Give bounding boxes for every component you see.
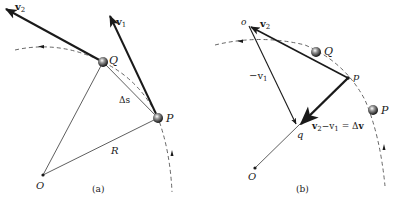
origin-point-b bbox=[253, 166, 256, 169]
panel-b: o v2 Q p −v1 P q v2−v1 = Δv O (b) bbox=[215, 17, 389, 194]
ball-Q bbox=[98, 57, 108, 67]
radial-line-Oq bbox=[255, 124, 300, 168]
circular-path-dashed-b bbox=[215, 40, 385, 187]
radius-OP bbox=[43, 118, 158, 175]
vector-delta-v bbox=[301, 78, 348, 124]
svg-text:v2: v2 bbox=[259, 18, 270, 31]
radius-OQ bbox=[43, 62, 103, 175]
svg-text:v1: v1 bbox=[115, 16, 126, 29]
path-direction-arrow-top bbox=[38, 45, 44, 49]
caption-b: (b) bbox=[296, 184, 309, 194]
label-Q-b: Q bbox=[324, 45, 333, 58]
label-O-a: O bbox=[36, 180, 44, 191]
point-p bbox=[346, 76, 350, 80]
label-o: o bbox=[241, 17, 247, 27]
chord-QP bbox=[103, 62, 158, 118]
ball-P-b bbox=[368, 105, 378, 115]
circular-path-dashed bbox=[15, 47, 172, 192]
label-neg-v1: −v bbox=[249, 70, 263, 81]
origin-point bbox=[41, 173, 44, 176]
svg-text:v2: v2 bbox=[14, 1, 25, 14]
label-P-b: P bbox=[380, 104, 389, 117]
ball-Q-b bbox=[311, 47, 321, 57]
label-P: P bbox=[165, 112, 174, 125]
path-direction-arrow-right bbox=[171, 150, 174, 156]
label-delta-v-equation: v2−v1 = Δv bbox=[311, 121, 365, 133]
path-direction-arrow-top-b bbox=[237, 40, 243, 44]
label-R: R bbox=[110, 145, 119, 156]
label-q: q bbox=[297, 129, 303, 140]
ball-P bbox=[153, 113, 163, 123]
label-O-b: O bbox=[248, 171, 256, 182]
uniform-circular-motion-diagram: v2 v1 Q P Δs R O (a) o v2 bbox=[0, 0, 393, 198]
vector-v1 bbox=[110, 16, 158, 118]
caption-a: (a) bbox=[92, 184, 104, 194]
vector-v2 bbox=[6, 9, 103, 62]
svg-text:−v1: −v1 bbox=[249, 70, 268, 83]
label-Q: Q bbox=[109, 54, 118, 67]
panel-a: v2 v1 Q P Δs R O (a) bbox=[6, 1, 174, 194]
label-delta-s: Δs bbox=[119, 95, 130, 105]
label-p: p bbox=[353, 71, 360, 82]
vector-v2-b bbox=[251, 27, 348, 78]
path-direction-arrow-right-b bbox=[383, 144, 386, 150]
